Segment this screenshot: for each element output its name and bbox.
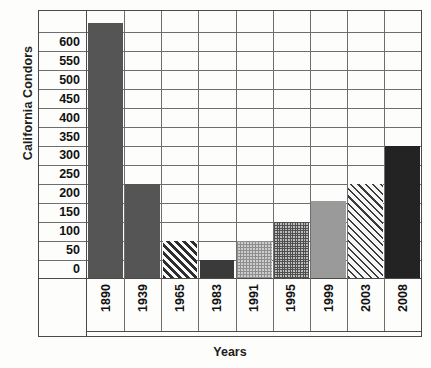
y-axis-tick-label: 500 xyxy=(39,70,86,89)
y-axis-tick-label: 600 xyxy=(39,32,86,51)
y-axis-tick-label: 550 xyxy=(39,51,86,70)
y-axis-cell-divider xyxy=(39,89,86,90)
y-axis-tick-label: 350 xyxy=(39,127,86,146)
y-axis-cell-divider xyxy=(39,165,86,166)
x-axis-tick-label: 2003 xyxy=(347,267,384,329)
horizontal-gridline xyxy=(87,108,421,109)
x-label-band-divider xyxy=(87,331,421,332)
x-axis-tick-label-text: 1965 xyxy=(173,284,187,312)
bar-chart-figure: California Condors Years 600550500450400… xyxy=(0,0,431,368)
y-axis-cell-divider xyxy=(39,260,86,261)
x-axis-tick-label-text: 1983 xyxy=(210,284,224,312)
y-axis-tick-label: 300 xyxy=(39,146,86,165)
y-axis-cell-divider xyxy=(39,108,86,109)
x-axis-tick-label: 2008 xyxy=(384,267,421,329)
x-axis-tick-label-text: 1991 xyxy=(247,284,261,312)
x-axis-tick-label-text: 1999 xyxy=(321,284,335,312)
y-axis-tick-label: 0 xyxy=(39,260,86,279)
x-axis-tick-label: 1983 xyxy=(198,267,235,329)
bar xyxy=(385,146,420,278)
bar xyxy=(125,184,160,279)
y-axis-cell-divider xyxy=(39,146,86,147)
chart-plot-frame: 600550500450400350300250200150100500 189… xyxy=(38,10,422,337)
x-axis-tick-label: 1999 xyxy=(310,267,347,329)
horizontal-gridline xyxy=(87,165,421,166)
x-axis-tick-label: 1995 xyxy=(273,267,310,329)
horizontal-gridline xyxy=(87,32,421,33)
horizontal-gridline xyxy=(87,51,421,52)
y-axis-tick-label: 200 xyxy=(39,184,86,203)
y-axis-tick-label: 100 xyxy=(39,222,86,241)
y-axis-tick-label: 150 xyxy=(39,203,86,222)
y-axis-label-gutter: 600550500450400350300250200150100500 xyxy=(39,11,87,336)
y-axis-cell-divider xyxy=(39,32,86,33)
x-axis-title: Years xyxy=(40,345,420,359)
y-axis-tick-label: 400 xyxy=(39,108,86,127)
horizontal-gridline xyxy=(87,70,421,71)
plot-area: 189019391965198319911995199920032008 xyxy=(87,11,421,336)
x-axis-tick-label-text: 2003 xyxy=(359,284,373,312)
x-axis-tick-label-text: 2008 xyxy=(396,284,410,312)
x-axis-tick-label: 1939 xyxy=(124,267,161,329)
y-axis-cell-divider xyxy=(39,241,86,242)
x-axis-tick-label-text: 1995 xyxy=(284,284,298,312)
horizontal-gridline xyxy=(87,89,421,90)
x-axis-tick-label: 1890 xyxy=(87,267,124,329)
y-axis-cell-divider xyxy=(39,70,86,71)
y-axis-cell-divider xyxy=(39,51,86,52)
y-axis-title: California Condors xyxy=(21,13,35,193)
x-axis-tick-label-text: 1939 xyxy=(136,284,150,312)
x-axis-tick-label-text: 1890 xyxy=(99,284,113,312)
y-axis-cell-divider xyxy=(39,203,86,204)
horizontal-gridline xyxy=(87,127,421,128)
x-axis-tick-label: 1991 xyxy=(236,267,273,329)
y-axis-tick-label: 250 xyxy=(39,165,86,184)
y-axis-cell-divider xyxy=(39,184,86,185)
horizontal-gridline xyxy=(87,146,421,147)
bar xyxy=(88,23,123,278)
y-axis-cell-divider xyxy=(39,278,86,279)
y-axis-tick-label: 50 xyxy=(39,241,86,260)
y-axis-tick-label: 450 xyxy=(39,89,86,108)
y-axis-cell-divider xyxy=(39,127,86,128)
x-axis-tick-label: 1965 xyxy=(161,267,198,329)
y-axis-cell-divider xyxy=(39,222,86,223)
bar xyxy=(348,184,383,279)
